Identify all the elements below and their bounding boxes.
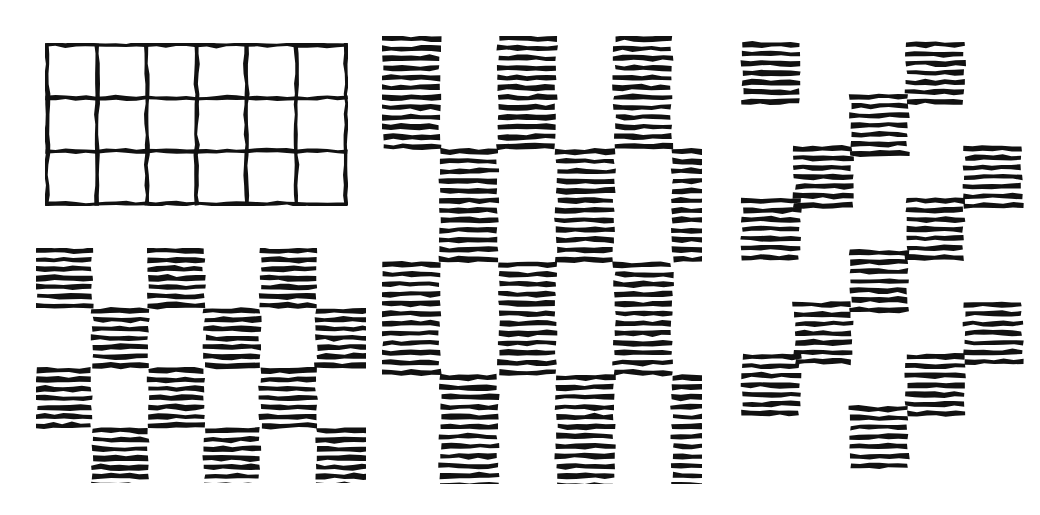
hatch-line [92,445,148,452]
hatch-line [613,340,673,347]
hatch-line [557,473,614,480]
hatch-line [439,227,497,234]
brick-pattern-panel-lower-left [36,248,366,483]
hatch-line [440,403,498,410]
hatch-line [851,296,907,304]
hatch-line [37,404,92,411]
hatch-line [793,145,852,152]
hatch-line [261,266,316,273]
hatch-line [963,321,1024,327]
hatch-line [499,310,555,317]
hatch-line [614,369,673,377]
hatch-line [615,311,672,317]
hatch-line [741,198,801,204]
hatch-line [743,88,799,95]
hatched-block [554,148,616,263]
hatch-line [672,188,702,195]
hatch-line [906,79,965,86]
hatch-line [442,393,500,399]
hatch-line [317,454,366,461]
hatch-line [613,46,671,52]
hatch-line [795,358,851,365]
hatch-line [205,362,260,369]
hatch-line [93,343,148,350]
hatch-line [440,374,497,381]
hatch-line [614,291,673,298]
hatch-line [672,246,702,253]
hatch-line [614,349,672,355]
hatch-line [672,148,702,155]
hatched-block [905,41,966,105]
hatch-line [499,36,557,42]
hatch-line [439,207,497,214]
hatch-line [613,280,674,288]
grid-line [45,43,50,206]
hatch-line [613,55,674,62]
hatch-line [147,376,205,383]
hatch-line [907,99,963,105]
hatch-line [36,385,91,392]
hatch-line [203,325,261,332]
hatch-line [439,246,498,253]
hatch-line [384,143,442,150]
hatch-line [498,94,558,101]
hatch-line [850,424,907,430]
hatch-line [439,384,497,391]
hatch-line [795,330,851,337]
hatch-line [741,245,801,251]
hatch-line [905,254,964,261]
hatch-line [498,300,555,307]
hatch-line [496,143,555,151]
hatch-line [441,443,499,450]
hatch-line [850,268,909,274]
hatch-line [849,249,909,256]
hatched-block [849,405,910,469]
hatch-line [554,453,614,460]
hatch-line [441,216,499,223]
hatch-line [907,353,965,360]
hatch-line [92,362,149,369]
hatch-line [671,227,702,233]
hatch-line [742,41,799,48]
hatch-line [556,187,616,195]
hatch-line [148,367,203,374]
hatch-line [850,259,908,266]
hatch-line [557,247,612,254]
hatch-line [849,443,907,449]
hatch-line [556,433,613,440]
brick-pattern-panel-center [382,36,702,484]
hatch-line [963,145,1022,151]
hatched-block [849,249,909,313]
hatch-line [792,301,851,307]
hatch-line [741,382,800,389]
hatch-line [499,281,556,288]
hatch-line [612,84,670,91]
hatch-line [258,386,316,392]
hatch-line [498,54,555,61]
hatch-line [963,302,1021,308]
hatch-line [906,235,963,241]
hatch-line [147,248,204,254]
hatch-line [382,123,439,130]
hatch-line [964,174,1023,180]
hatch-line [440,158,497,164]
hatch-line [147,302,205,310]
hatch-line [440,453,497,460]
hatch-line [742,51,800,57]
hatched-block [793,145,854,209]
hatch-line [849,112,910,118]
hatch-line [36,376,91,383]
hatched-block [741,354,802,416]
hatch-line [741,60,801,67]
hatch-line [204,464,260,470]
hatch-line [203,344,261,351]
grid-line [94,43,100,206]
hatch-line [497,84,554,92]
hatch-line [92,473,149,480]
staggered-pattern-svg [736,36,1026,484]
hatch-line [147,293,204,300]
hatch-line [204,316,261,323]
hatch-line [743,400,801,407]
hatch-line [315,316,366,323]
hatch-line [616,36,673,42]
